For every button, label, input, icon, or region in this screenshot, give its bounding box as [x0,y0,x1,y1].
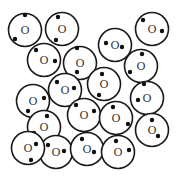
particle-label: O [136,60,145,73]
electron-dot [142,82,146,86]
electron-dot [42,96,46,100]
electron-dot [74,103,78,107]
particle-label: O [82,143,91,156]
electron-dot [29,158,33,162]
particle: O [68,99,101,132]
electron-dot [141,18,145,22]
particle-label: O [110,39,119,52]
particle: O [12,132,45,165]
particle-label: O [142,92,151,105]
electron-dot [140,52,144,56]
particle-label: O [99,78,108,91]
electron-dot [156,134,160,138]
particle: O [88,68,121,101]
diagram-canvas: OOOOOOOOOOOOOOOOOOO [0,0,179,181]
particle: O [9,13,42,47]
particle: O [125,50,158,83]
electron-dot [100,72,104,76]
electron-dot [34,142,38,146]
electron-dot [120,45,124,49]
particle-label: O [79,109,88,122]
electron-dot [150,118,154,122]
electron-dot [97,93,101,97]
particle: O [46,13,79,46]
electron-dot [114,139,118,143]
electron-dot [92,109,96,113]
electron-dot [128,70,132,74]
particle-label: O [147,23,156,36]
electron-dot [75,70,79,74]
electron-dot [80,137,84,141]
particle-label: O [60,84,69,97]
electron-dot [62,149,66,153]
particle: O [71,133,104,166]
particle-label: O [23,142,32,155]
particle-diagram: OOOOOOOOOOOOOOOOOOO [0,0,179,181]
electron-dot [54,38,58,42]
electron-dot [45,114,49,118]
particle-label: O [75,57,84,70]
electron-dot [126,122,130,126]
electron-dot [127,148,131,152]
electron-dot [136,98,140,102]
particle: O [131,82,164,115]
electron-dot [53,59,57,63]
electron-dot [26,109,30,113]
particle-label: O [111,112,120,125]
particle: O [28,44,61,77]
particle-label: O [147,124,156,137]
particle-label: O [39,121,48,134]
particle-label: O [51,146,60,159]
particle-label: O [20,24,29,37]
electron-dot [160,29,164,33]
electron-dot [111,105,115,109]
particle: O [102,136,135,169]
electron-dot [55,80,59,84]
particle-label: O [28,95,37,108]
particle-label: O [57,23,66,36]
electron-dot [56,15,60,19]
particle: O [100,102,133,135]
particle: O [136,13,169,46]
particle-label: O [113,146,122,159]
electron-dot [13,37,17,41]
particle-label: O [39,54,48,67]
electron-dot [104,41,108,45]
particle: O [136,114,169,147]
electron-dot [34,48,38,52]
electron-dot [92,150,96,154]
electron-dot [23,13,27,17]
electron-dot [46,143,50,147]
electron-dot [75,46,79,50]
electron-dot [72,86,76,90]
